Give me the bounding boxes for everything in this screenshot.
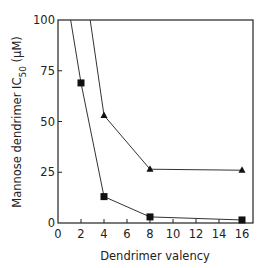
square-marker <box>78 79 85 86</box>
x-tick-label: 6 <box>123 227 130 241</box>
x-tick-label: 4 <box>100 227 107 241</box>
square-marker <box>239 216 246 223</box>
x-tick-label: 10 <box>166 227 181 241</box>
y-tick-label: 100 <box>33 13 55 27</box>
triangle-marker <box>101 111 108 118</box>
x-tick-label: 8 <box>146 227 153 241</box>
series-group <box>71 20 246 223</box>
series-line-triangles <box>90 20 242 170</box>
plot-frame <box>58 20 253 223</box>
x-tick-label: 0 <box>54 227 61 241</box>
x-tick-label: 14 <box>212 227 227 241</box>
y-axis-title: Mannose dendrimer IC50 (µM) <box>10 36 28 208</box>
y-tick-label: 25 <box>40 165 55 179</box>
square-marker <box>147 213 154 220</box>
square-marker <box>101 193 108 200</box>
x-tick-label: 2 <box>77 227 84 241</box>
y-tick-label: 0 <box>48 216 55 230</box>
chart: 0246810121416 0255075100 Dendrimer valen… <box>0 0 267 268</box>
x-axis-title: Dendrimer valency <box>100 249 210 263</box>
y-tick-label: 75 <box>40 64 55 78</box>
series-line-squares <box>71 20 242 220</box>
x-tick-label: 12 <box>189 227 204 241</box>
x-axis: 0246810121416 <box>54 219 249 241</box>
y-tick-label: 50 <box>40 115 55 129</box>
x-tick-label: 16 <box>235 227 250 241</box>
triangle-marker <box>239 166 246 173</box>
